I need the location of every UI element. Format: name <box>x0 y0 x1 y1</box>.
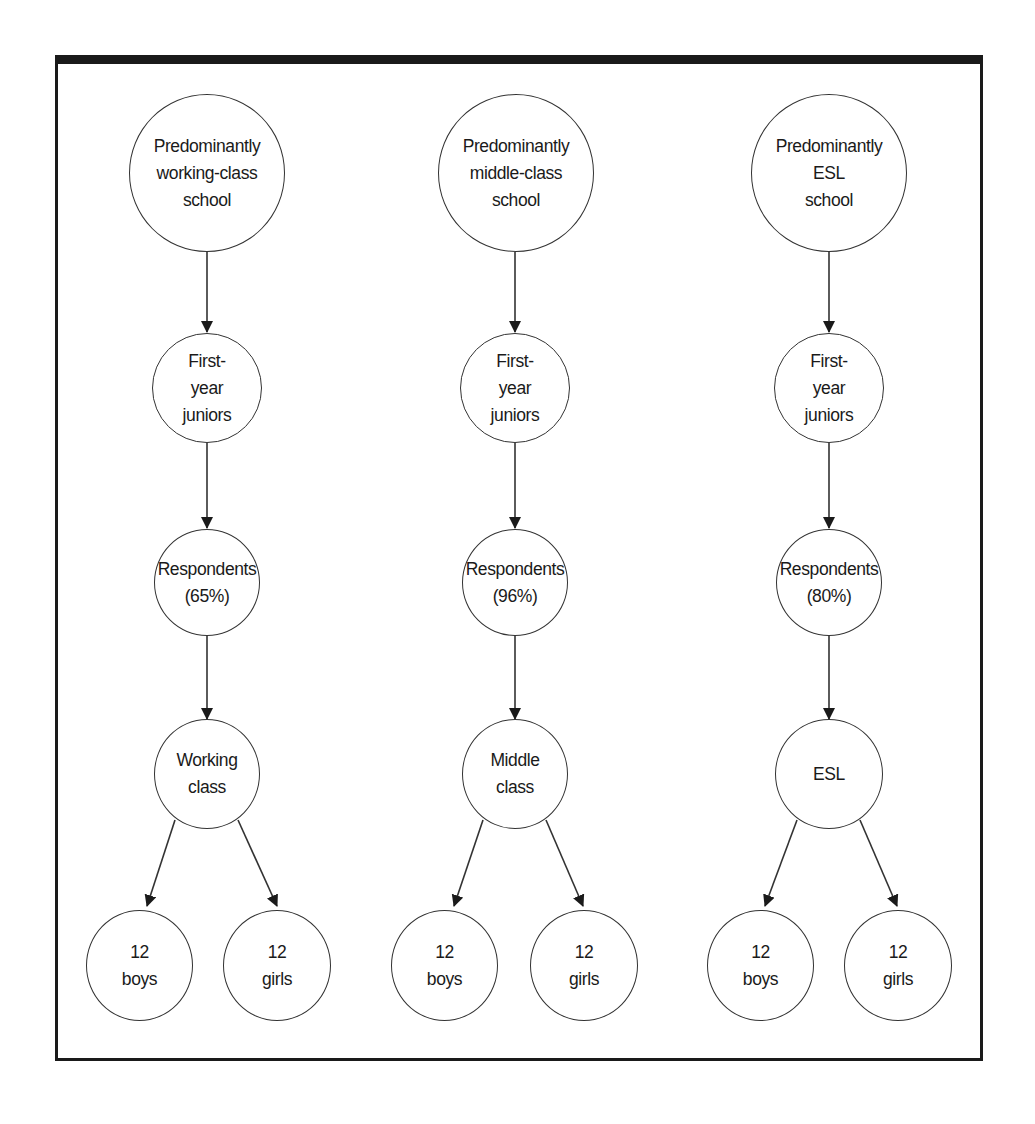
node-boys: 12 boys <box>391 910 498 1021</box>
node-girls: 12 girls <box>530 910 638 1021</box>
arrow <box>147 820 175 906</box>
node-group: ESL <box>775 719 883 829</box>
node-label: 12 boys <box>122 939 157 993</box>
arrow <box>238 820 277 906</box>
node-school: Predominantly ESL school <box>751 94 907 252</box>
node-respondents: Respondents (80%) <box>776 529 882 636</box>
node-label: Working class <box>176 747 237 801</box>
node-respondents: Respondents (65%) <box>154 529 260 636</box>
node-label: Predominantly middle-class school <box>463 133 570 214</box>
node-label: Respondents (80%) <box>780 556 879 610</box>
node-label: Predominantly ESL school <box>776 133 883 214</box>
node-girls: 12 girls <box>223 910 331 1021</box>
node-label: Respondents (65%) <box>158 556 257 610</box>
node-cohort: First- year juniors <box>152 333 262 443</box>
node-label: 12 girls <box>883 939 913 993</box>
node-respondents: Respondents (96%) <box>462 529 568 636</box>
node-label: Predominantly working-class school <box>154 133 261 214</box>
arrow <box>860 820 897 906</box>
node-label: 12 girls <box>569 939 599 993</box>
arrow <box>546 820 583 906</box>
node-label: Respondents (96%) <box>466 556 565 610</box>
node-group: Working class <box>154 719 260 829</box>
node-school: Predominantly working-class school <box>129 94 285 252</box>
node-girls: 12 girls <box>844 910 952 1021</box>
node-boys: 12 boys <box>86 910 193 1021</box>
node-cohort: First- year juniors <box>774 333 884 443</box>
node-label: 12 boys <box>427 939 462 993</box>
node-school: Predominantly middle-class school <box>438 94 594 252</box>
node-label: First- year juniors <box>183 348 232 429</box>
node-label: ESL <box>813 761 845 788</box>
arrow <box>765 820 797 906</box>
node-cohort: First- year juniors <box>460 333 570 443</box>
node-label: First- year juniors <box>805 348 854 429</box>
node-label: 12 boys <box>743 939 778 993</box>
node-group: Middle class <box>462 719 568 829</box>
node-label: First- year juniors <box>491 348 540 429</box>
node-boys: 12 boys <box>707 910 814 1021</box>
node-label: 12 girls <box>262 939 292 993</box>
node-label: Middle class <box>490 747 539 801</box>
arrow <box>454 820 483 906</box>
